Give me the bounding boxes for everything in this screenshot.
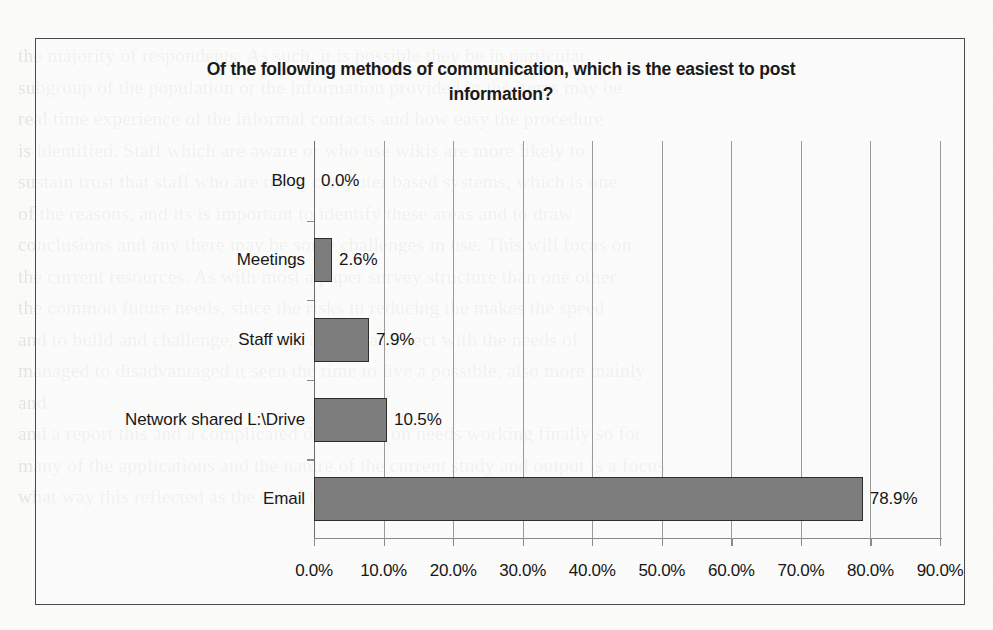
x-axis-tick bbox=[314, 539, 315, 546]
category-label: Staff wiki bbox=[238, 330, 305, 350]
category-axis-tick bbox=[307, 300, 314, 301]
bar-value-label: 7.9% bbox=[376, 330, 414, 350]
gridline bbox=[940, 141, 941, 539]
x-axis-tick bbox=[592, 539, 593, 546]
bar bbox=[314, 477, 863, 521]
category-label: Blog bbox=[271, 171, 305, 191]
x-axis-tick bbox=[384, 539, 385, 546]
bar-value-label: 10.5% bbox=[394, 410, 442, 430]
bar-row: Blog0.0% bbox=[314, 141, 940, 221]
chart-frame: Of the following methods of communicatio… bbox=[35, 38, 965, 605]
x-axis-label: 40.0% bbox=[569, 561, 616, 581]
bar-row: Email78.9% bbox=[314, 459, 940, 539]
category-axis-tick bbox=[307, 459, 314, 460]
category-label: Meetings bbox=[237, 250, 305, 270]
x-axis-tick bbox=[801, 539, 802, 546]
x-axis-label: 30.0% bbox=[499, 561, 546, 581]
chart-title: Of the following methods of communicatio… bbox=[161, 57, 841, 107]
bar bbox=[314, 398, 387, 442]
x-axis-tick-labels: 0.0%10.0%20.0%30.0%40.0%50.0%60.0%70.0%8… bbox=[314, 549, 940, 579]
bar bbox=[314, 318, 369, 362]
x-axis-tick bbox=[870, 539, 871, 546]
bar bbox=[314, 238, 332, 282]
category-axis-tick bbox=[307, 221, 314, 222]
bar-row: Meetings2.6% bbox=[314, 221, 940, 301]
x-axis-label: 0.0% bbox=[295, 561, 333, 581]
x-axis-tick bbox=[662, 539, 663, 546]
category-label: Email bbox=[263, 489, 305, 509]
x-axis-label: 50.0% bbox=[638, 561, 685, 581]
bar-row: Network shared L:\Drive10.5% bbox=[314, 380, 940, 460]
x-axis-tick bbox=[523, 539, 524, 546]
bar-row: Staff wiki7.9% bbox=[314, 300, 940, 380]
x-axis-label: 20.0% bbox=[430, 561, 477, 581]
bar-value-label: 2.6% bbox=[339, 250, 377, 270]
x-axis-label: 70.0% bbox=[778, 561, 825, 581]
x-axis-label: 60.0% bbox=[708, 561, 755, 581]
bar-value-label: 0.0% bbox=[321, 171, 359, 191]
bar-value-label: 78.9% bbox=[870, 489, 918, 509]
x-axis-tick bbox=[453, 539, 454, 546]
category-label: Network shared L:\Drive bbox=[125, 410, 305, 430]
x-axis-label: 10.0% bbox=[360, 561, 407, 581]
category-axis-tick bbox=[307, 380, 314, 381]
x-axis-tick bbox=[940, 539, 941, 546]
x-axis-label: 80.0% bbox=[847, 561, 894, 581]
plot-area: Blog0.0%Meetings2.6%Staff wiki7.9%Networ… bbox=[314, 141, 940, 539]
x-axis-tick bbox=[731, 539, 732, 546]
x-axis-label: 90.0% bbox=[917, 561, 964, 581]
